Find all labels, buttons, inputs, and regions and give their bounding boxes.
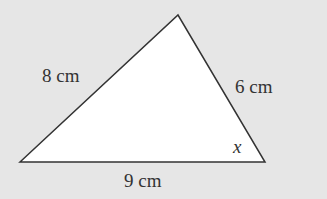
- label-left-side: 8 cm: [42, 65, 80, 86]
- label-right-side: 6 cm: [235, 76, 273, 97]
- label-angle-x: x: [232, 136, 242, 157]
- triangle-diagram: 8 cm 6 cm 9 cm x: [0, 0, 327, 199]
- triangle: [20, 15, 265, 162]
- label-bottom-side: 9 cm: [124, 170, 162, 191]
